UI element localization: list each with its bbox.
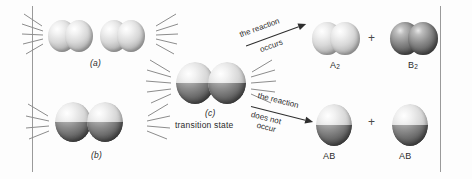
atom-a1-right [65,20,93,52]
product-A2 [312,22,362,56]
panel-c-label: (c) [205,108,216,118]
panel-b-label: (b) [91,150,102,160]
product-AB-right-label: AB [399,151,411,161]
atom-A2-right [330,22,360,55]
product-AB-right [392,104,428,146]
vibration-rays-a-right [144,12,178,58]
transition-state-caption: transition state [175,120,233,130]
atom-ts-right [208,62,246,104]
plus-sign-lower: + [368,116,375,128]
product-A2-label: A2 [330,60,340,70]
product-B2-label: B2 [408,60,418,70]
transition-state-cluster [176,62,246,108]
plus-sign-upper: + [368,32,375,44]
panel-a-molecules [48,18,148,54]
panel-b-molecules [55,102,141,144]
product-B2 [390,22,440,56]
panel-a-label: (a) [90,58,101,68]
vibration-rays-a-left [22,12,56,58]
atom-a2-right [117,20,145,52]
figure-canvas: (a) (b) [0,0,472,179]
vibration-rays-b-left [26,100,58,144]
page-rule-right [440,6,441,172]
product-AB-left-label: AB [323,151,335,161]
product-AB-left [316,104,352,146]
atom-B2-right [408,22,438,55]
vibration-rays-c-left [146,58,178,108]
atom-b2 [87,102,123,142]
atom-b1 [55,102,91,142]
